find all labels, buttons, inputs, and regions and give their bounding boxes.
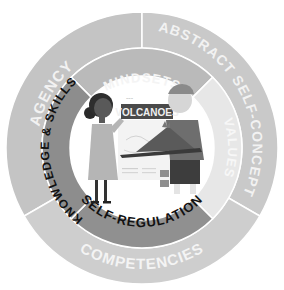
svg-text:~~~: ~~~ <box>126 96 134 101</box>
development-ring-diagram: AGENCY ABSTRACT SELF-CONCEPT COMPETENCIE… <box>0 0 284 290</box>
sign-text: VOLCANOES <box>115 107 179 118</box>
